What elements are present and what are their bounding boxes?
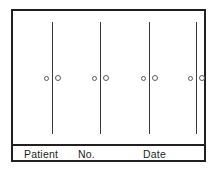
scale-group-1[interactable] (38, 11, 68, 144)
scale-axis-line-1 (52, 22, 53, 134)
scale-area (13, 11, 204, 144)
form-card: Patient No. Date (11, 9, 206, 162)
field-label-no: No. (78, 148, 95, 160)
footer-fields-row: Patient No. Date (13, 146, 204, 160)
scale-group-3[interactable] (135, 11, 165, 144)
scale-group-2[interactable] (86, 11, 116, 144)
scale-marker-4-right[interactable] (199, 75, 205, 81)
field-label-patient: Patient (24, 148, 58, 160)
scale-marker-2-right[interactable] (103, 75, 109, 81)
scale-marker-2-left[interactable] (92, 76, 97, 81)
scale-axis-line-2 (100, 22, 101, 134)
scale-marker-4-left[interactable] (188, 76, 193, 81)
scale-marker-1-right[interactable] (55, 75, 61, 81)
screenshot-canvas: Patient No. Date (0, 0, 217, 173)
scale-marker-1-left[interactable] (44, 76, 49, 81)
scale-axis-line-3 (149, 22, 150, 134)
scale-axis-line-4 (196, 22, 197, 134)
scale-marker-3-right[interactable] (152, 75, 158, 81)
scale-group-4[interactable] (182, 11, 212, 144)
field-label-date: Date (143, 148, 166, 160)
scale-marker-3-left[interactable] (141, 76, 146, 81)
